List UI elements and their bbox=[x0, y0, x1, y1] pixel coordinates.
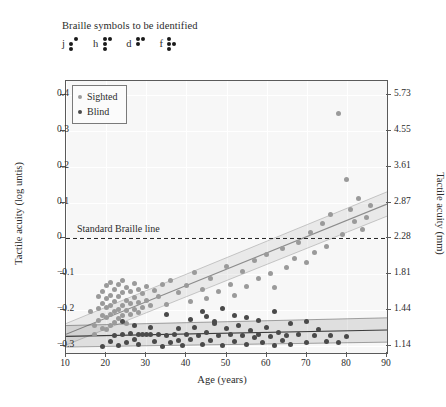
data-point bbox=[164, 312, 169, 317]
data-point bbox=[108, 339, 113, 344]
data-point bbox=[116, 343, 121, 348]
x-tick-label: 90 bbox=[371, 358, 401, 368]
braille-dot bbox=[167, 47, 171, 51]
data-point bbox=[128, 331, 133, 336]
data-point bbox=[216, 289, 221, 294]
legend-marker-icon bbox=[78, 95, 82, 99]
braille-dot bbox=[74, 37, 78, 41]
standard-braille-line-label: Standard Braille line bbox=[77, 223, 160, 234]
data-point bbox=[132, 337, 137, 342]
data-point bbox=[100, 289, 105, 294]
data-point bbox=[96, 294, 101, 299]
braille-dot bbox=[172, 47, 176, 51]
data-point bbox=[120, 313, 125, 318]
braille-dot bbox=[172, 42, 176, 46]
data-point bbox=[112, 287, 117, 292]
y-tick-label-right: 2.87 bbox=[394, 196, 411, 206]
x-tick-label: 10 bbox=[50, 358, 80, 368]
braille-cell-icon bbox=[167, 36, 177, 51]
braille-dot bbox=[136, 47, 140, 51]
braille-dot bbox=[167, 37, 171, 41]
data-point bbox=[120, 278, 125, 283]
x-tick-label: 70 bbox=[291, 358, 321, 368]
data-point bbox=[112, 333, 117, 338]
data-point bbox=[148, 332, 153, 337]
y-tick-label-right: 1.14 bbox=[394, 339, 411, 349]
x-tick bbox=[266, 352, 267, 357]
data-point bbox=[180, 343, 185, 348]
data-point bbox=[156, 294, 161, 299]
legend-label: Sighted bbox=[87, 90, 118, 105]
braille-dot bbox=[103, 47, 107, 51]
data-point bbox=[276, 330, 281, 335]
y-tick-label-right: 1.81 bbox=[394, 267, 411, 277]
data-point bbox=[108, 303, 113, 308]
data-point bbox=[208, 338, 213, 343]
data-point bbox=[204, 296, 209, 301]
braille-cell-icon bbox=[135, 36, 145, 51]
data-point bbox=[132, 323, 137, 328]
y-tick-right bbox=[386, 94, 391, 95]
braille-cell-icon bbox=[102, 36, 112, 51]
x-tick bbox=[145, 352, 146, 357]
data-point bbox=[308, 230, 313, 235]
data-point bbox=[188, 337, 193, 342]
data-point bbox=[256, 318, 261, 323]
data-point bbox=[108, 293, 113, 298]
data-point bbox=[116, 294, 121, 299]
data-point bbox=[160, 282, 165, 287]
data-point bbox=[256, 332, 261, 337]
data-point bbox=[232, 313, 237, 318]
y-tick-right bbox=[386, 166, 391, 167]
y-tick-label-right: 3.61 bbox=[394, 160, 411, 170]
data-point bbox=[288, 342, 293, 347]
data-point bbox=[192, 270, 197, 275]
legend-marker-icon bbox=[78, 110, 82, 114]
braille-dot bbox=[69, 42, 73, 46]
data-point bbox=[192, 325, 197, 330]
data-point bbox=[92, 323, 97, 328]
x-tick bbox=[65, 352, 66, 357]
x-tick-label: 60 bbox=[251, 358, 281, 368]
braille-dot bbox=[103, 42, 107, 46]
braille-dot bbox=[108, 42, 112, 46]
data-point bbox=[136, 300, 141, 305]
data-point bbox=[212, 319, 217, 324]
data-point bbox=[224, 264, 229, 269]
x-tick bbox=[185, 352, 186, 357]
data-point bbox=[164, 302, 169, 307]
braille-dot bbox=[108, 37, 112, 41]
y-tick-label-right: 2.28 bbox=[394, 231, 411, 241]
braille-letter-label: h bbox=[93, 38, 98, 49]
data-point bbox=[236, 323, 241, 328]
data-point bbox=[88, 309, 93, 314]
data-point bbox=[128, 301, 133, 306]
braille-dot bbox=[74, 42, 78, 46]
data-point bbox=[116, 307, 121, 312]
y-tick-right bbox=[386, 237, 391, 238]
x-tick bbox=[226, 352, 227, 357]
chart-legend: Sighted Blind bbox=[72, 85, 127, 124]
data-point bbox=[132, 281, 137, 286]
braille-letter-label: d bbox=[126, 38, 131, 49]
braille-symbol: h bbox=[93, 36, 112, 51]
braille-dot bbox=[108, 47, 112, 51]
data-point bbox=[148, 303, 153, 308]
legend-item-blind[interactable]: Blind bbox=[78, 105, 118, 120]
data-point bbox=[152, 288, 157, 293]
data-point bbox=[112, 320, 117, 325]
data-point bbox=[160, 344, 165, 349]
braille-dot bbox=[69, 47, 73, 51]
data-point bbox=[232, 293, 237, 298]
data-point bbox=[112, 299, 117, 304]
braille-dot bbox=[103, 37, 107, 41]
data-point bbox=[140, 305, 145, 310]
data-point bbox=[120, 303, 125, 308]
data-point bbox=[208, 276, 213, 281]
data-point bbox=[312, 250, 317, 255]
legend-item-sighted[interactable]: Sighted bbox=[78, 90, 118, 105]
data-point bbox=[176, 338, 181, 343]
data-point bbox=[220, 343, 225, 348]
braille-symbol-row: jhdf bbox=[62, 36, 177, 51]
